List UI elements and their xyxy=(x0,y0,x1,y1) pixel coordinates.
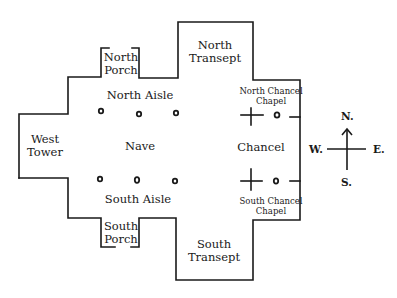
label-north-transept: North Transept xyxy=(189,39,241,65)
label-nave: Nave xyxy=(125,140,155,153)
pillar-icon xyxy=(275,112,280,117)
label-south-porch: South Porch xyxy=(104,220,138,246)
label-south-transept: South Transept xyxy=(188,238,240,264)
pillar-icon xyxy=(174,111,178,116)
pillar-icon xyxy=(135,177,139,183)
compass-north-label: N. xyxy=(341,110,354,123)
label-west-tower: West Tower xyxy=(27,133,63,159)
compass-rose-icon xyxy=(327,129,366,170)
south-chapel-cross-icon xyxy=(241,169,262,190)
compass-east-label: E. xyxy=(373,143,385,156)
pillar-icon xyxy=(99,109,103,114)
label-chancel: Chancel xyxy=(237,141,284,154)
label-south-chancel-chapel: South Chancel Chapel xyxy=(239,196,302,216)
pillar-icon xyxy=(274,178,278,183)
label-north-porch: North Porch xyxy=(104,51,139,77)
label-north-aisle: North Aisle xyxy=(107,89,174,102)
label-south-aisle: South Aisle xyxy=(105,193,171,206)
compass-west-label: W. xyxy=(309,143,323,156)
pillar-icon xyxy=(98,177,102,182)
compass-south-label: S. xyxy=(341,176,352,189)
south-porch-west-wall xyxy=(19,178,115,247)
pillar-icon xyxy=(137,112,141,117)
label-north-chancel-chapel: North Chancel Chapel xyxy=(239,86,302,106)
north-chapel-cross-icon xyxy=(241,108,263,125)
pillar-icon xyxy=(173,179,177,184)
